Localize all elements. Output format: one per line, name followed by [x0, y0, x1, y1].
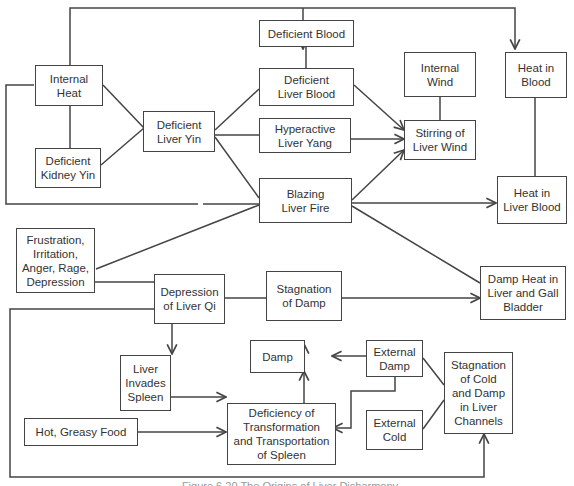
- node-deficient-liver-blood: Deficient Liver Blood: [259, 68, 354, 106]
- node-deficient-kidney-yin: Deficient Kidney Yin: [35, 148, 101, 188]
- node-heat-in-liver-blood: Heat in Liver Blood: [497, 176, 567, 224]
- node-stagnation-cold-damp: Stagnation of Cold and Damp in Liver Cha…: [444, 352, 513, 434]
- node-hot-greasy-food: Hot, Greasy Food: [24, 418, 138, 446]
- node-internal-wind: Internal Wind: [404, 52, 476, 97]
- node-external-damp: External Damp: [366, 340, 423, 377]
- node-stirring-of-liver-wind: Stirring of Liver Wind: [404, 120, 476, 160]
- node-damp: Damp: [250, 340, 305, 373]
- node-deficiency-transformation: Deficiency of Transformation and Transpo…: [227, 403, 336, 465]
- node-frustration: Frustration, Irritation, Anger, Rage, De…: [16, 228, 95, 293]
- figure-caption: Figure 6.20 The Origins of Liver Disharm…: [140, 478, 440, 486]
- node-liver-invades-spleen: Liver Invades Spleen: [120, 355, 171, 411]
- node-heat-in-blood: Heat in Blood: [505, 52, 567, 98]
- node-blazing-liver-fire: Blazing Liver Fire: [259, 178, 352, 223]
- node-hyperactive-liver-yang: Hyperactive Liver Yang: [259, 118, 351, 153]
- node-deficient-blood: Deficient Blood: [259, 20, 354, 47]
- node-damp-heat: Damp Heat in Liver and Gall Bladder: [480, 266, 566, 320]
- node-internal-heat: Internal Heat: [35, 65, 103, 106]
- node-stagnation-of-damp: Stagnation of Damp: [266, 271, 342, 321]
- node-external-cold: External Cold: [366, 410, 423, 450]
- node-depression-of-liver-qi: Depression of Liver Qi: [154, 274, 225, 324]
- node-deficient-liver-yin: Deficient Liver Yin: [143, 111, 215, 152]
